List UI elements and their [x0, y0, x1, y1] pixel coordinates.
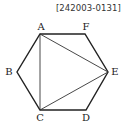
vertex-label-F: F — [83, 21, 90, 32]
vertex-labels: AFEDCB — [5, 21, 118, 123]
vertex-label-B: B — [5, 66, 12, 77]
segment-AE — [40, 34, 108, 72]
inscribed-triangle — [40, 34, 108, 110]
vertex-label-C: C — [36, 112, 44, 123]
vertex-label-E: E — [111, 66, 118, 77]
hexagon-outline — [17, 34, 108, 110]
vertex-label-D: D — [82, 112, 90, 123]
vertex-label-A: A — [36, 21, 45, 32]
hexagon-diagram: AFEDCB — [0, 0, 125, 128]
